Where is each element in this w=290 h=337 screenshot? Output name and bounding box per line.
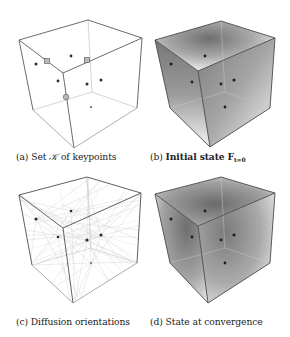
cube-d: [0, 0, 290, 337]
caption-label: (d): [150, 316, 163, 327]
caption-d: (d) State at convergence: [150, 316, 263, 327]
panel-d-state-at-convergence: (d) State at convergence: [0, 0, 290, 337]
caption-text: State at convergence: [166, 316, 263, 327]
